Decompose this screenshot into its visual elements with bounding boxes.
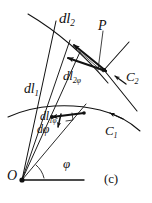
label-angle-phi: φ bbox=[63, 157, 70, 170]
label-dl2-phi: dl2φ bbox=[63, 69, 81, 82]
label-dl2: dl2 bbox=[59, 11, 75, 26]
figure-caption: (c) bbox=[104, 172, 118, 185]
label-curve-c2: C2 bbox=[126, 70, 138, 83]
intersection-dot bbox=[102, 68, 106, 72]
label-origin: O bbox=[7, 169, 17, 183]
dl1-end-dot bbox=[82, 111, 86, 115]
label-curve-c1: C1 bbox=[105, 124, 117, 137]
vector-dl2-path bbox=[74, 45, 106, 71]
label-dl1-phi: dl1φ bbox=[40, 110, 56, 122]
curve-c2-upper-path bbox=[104, 42, 129, 70]
vector-dl1-path bbox=[52, 113, 84, 117]
figure-diagram bbox=[0, 0, 152, 203]
curve-c2-direction-arrow bbox=[115, 76, 126, 84]
label-point-p: P bbox=[98, 19, 106, 33]
label-d-phi: dφ bbox=[37, 123, 49, 135]
label-dl1: dl1 bbox=[24, 82, 39, 96]
origin-dot bbox=[19, 177, 24, 182]
figure-container: dl2 P dl2φ C2 dl1 C1 dl1φ dφ O φ (c) bbox=[0, 0, 152, 203]
line-p-path bbox=[98, 31, 103, 70]
angle-arc-path bbox=[36, 165, 44, 178]
curve-c1-direction-arrow bbox=[110, 113, 123, 119]
ray-outer-left bbox=[22, 21, 56, 180]
